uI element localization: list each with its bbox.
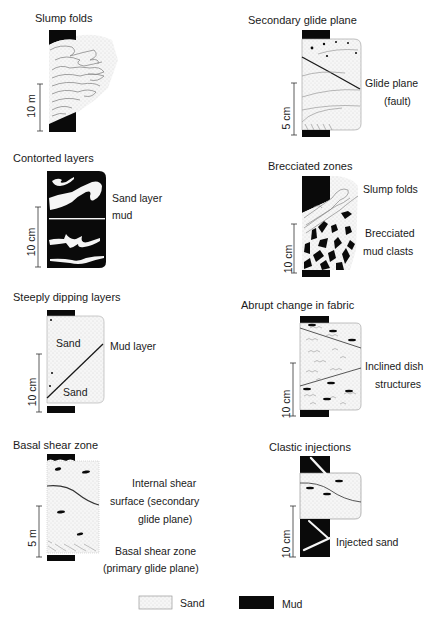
- panel-title-steeply-dipping-layers: Steeply dipping layers: [13, 291, 121, 304]
- legend-sand-label: Sand: [180, 597, 205, 610]
- diagram-canvas: [0, 0, 436, 622]
- label-mud: mud: [112, 209, 132, 222]
- label-slump-folds: Slump folds: [363, 183, 418, 196]
- panel-title-slump-folds: Slump folds: [35, 12, 92, 25]
- basal-shear-zone-column: [36, 454, 99, 561]
- secondary-glide-plane-column: [291, 30, 361, 137]
- label-sand-lower: Sand: [63, 386, 88, 399]
- label-injected-sand: Injected sand: [336, 536, 398, 549]
- legend-sand-swatch: [139, 596, 172, 609]
- abrupt-change-in-fabric-column: [290, 316, 361, 417]
- panel-title-brecciated-zones: Brecciated zones: [268, 160, 352, 173]
- label-inclined-dish: Inclined dish: [365, 360, 423, 373]
- label-glide-plane: Glide plane: [365, 77, 418, 90]
- label-brecciated: Brecciated: [365, 227, 415, 240]
- label-sand-upper: Sand: [56, 337, 81, 350]
- label-structures: structures: [375, 378, 421, 391]
- scale-label-basal-shear-zone: 5 m: [26, 523, 38, 553]
- label-mud-layer: Mud layer: [110, 340, 156, 353]
- legend-mud-swatch: [239, 596, 274, 609]
- label-glide-plane-secondary: glide plane): [138, 513, 192, 526]
- panel-title-clastic-injections: Clastic injections: [269, 441, 351, 454]
- scale-label-brecciated-zones: 10 cm: [282, 242, 294, 276]
- label-sand-layer: Sand layer: [112, 192, 162, 205]
- panel-title-secondary-glide-plane: Secondary glide plane: [248, 14, 357, 27]
- scale-label-secondary-glide-plane: 5 cm: [280, 103, 292, 133]
- panel-title-contorted-layers: Contorted layers: [13, 152, 94, 165]
- scale-label-slump-folds: 10 m: [25, 91, 37, 121]
- panel-title-abrupt-change-in-fabric: Abrupt change in fabric: [241, 299, 354, 312]
- panel-title-basal-shear-zone: Basal shear zone: [13, 439, 98, 452]
- label-surface-secondary: surface (secondary: [110, 495, 199, 508]
- label-mud-clasts: mud clasts: [363, 245, 413, 258]
- slump-folds-column: [37, 30, 118, 132]
- brecciated-zones-column: [291, 176, 358, 277]
- label-fault: (fault): [384, 95, 411, 108]
- label-primary-glide-plane: (primary glide plane): [103, 562, 199, 575]
- label-basal-shear-zone: Basal shear zone: [115, 545, 196, 558]
- scale-label-contorted-layers: 10 cm: [25, 225, 37, 259]
- scale-label-clastic-injections: 10 cm: [280, 527, 292, 561]
- contorted-layers-column: [35, 171, 106, 268]
- scale-label-steeply-dipping-layers: 10 cm: [26, 375, 38, 409]
- scale-label-abrupt-change-in-fabric: 10 cm: [280, 387, 292, 421]
- legend-mud-label: Mud: [282, 598, 302, 611]
- label-internal-shear: Internal shear: [132, 477, 196, 490]
